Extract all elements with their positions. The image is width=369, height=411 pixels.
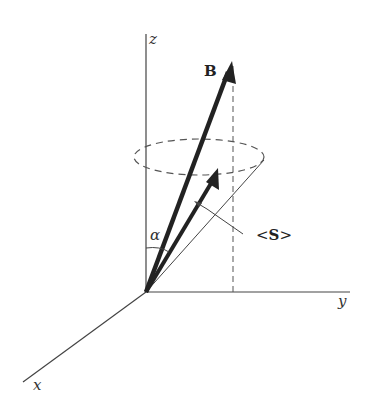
spin-close-bracket: > <box>279 226 292 244</box>
b-vector-label: B <box>204 62 217 80</box>
x-axis <box>23 292 146 382</box>
x-axis-label: x <box>33 376 42 394</box>
alpha-label: α <box>150 226 160 244</box>
b-arrowhead-icon <box>222 61 236 84</box>
precession-diagram: z y x B α <S> <box>0 0 369 411</box>
z-axis-label: z <box>148 30 157 48</box>
spin-open-bracket: < <box>256 226 269 244</box>
spin-symbol: S <box>269 226 280 244</box>
alpha-arc <box>146 248 169 253</box>
s-leader-line <box>197 203 243 234</box>
y-axis-label: y <box>337 292 347 310</box>
spin-expectation-label: <S> <box>256 226 292 244</box>
cone-edge-right <box>146 160 264 292</box>
